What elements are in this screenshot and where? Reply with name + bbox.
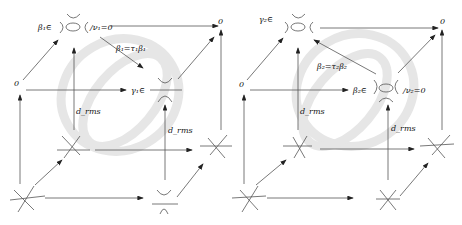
node-front-bottom-left <box>10 186 45 212</box>
node-back-right <box>200 135 232 158</box>
label-vertical-front: d_rms <box>168 126 193 135</box>
label-vertical-front: d_rms <box>391 124 416 133</box>
right-cube: γ₂∈ 0 0 β₂=τ₂β₂ β₂∈ /ν₂=0 d_rms d_rms <box>232 14 454 212</box>
node-top-left <box>285 14 313 33</box>
label-mid-right: β₂∈ <box>352 86 367 95</box>
label-top-left: β₁∈ <box>37 23 52 32</box>
label-top-right: 0 <box>440 17 445 26</box>
label-mid-right: γ₁∈ <box>131 86 145 95</box>
label-mid-left: 0 <box>239 80 244 89</box>
node-top-left <box>60 14 88 33</box>
watermark-knot-left <box>41 17 200 172</box>
label-mid-left: 0 <box>14 79 19 88</box>
label-top-right: 0 <box>218 17 223 26</box>
node-back-right <box>420 135 454 158</box>
label-top-left: γ₂∈ <box>259 15 273 24</box>
label-diagonal: β₂=τ₂β₂ <box>316 62 347 71</box>
label-mid-right-cond: /ν₂=0 <box>402 86 426 95</box>
label-diagonal: β₁=τ₁β₁ <box>115 44 146 53</box>
node-front-bottom-right <box>376 190 400 210</box>
node-front-bottom-right <box>152 190 178 214</box>
label-vertical-back: d_rms <box>76 107 101 116</box>
node-front-bottom-left <box>232 186 266 212</box>
label-top-left-cond: /ν₁=0 <box>89 23 113 32</box>
diagram-canvas: β₁∈ /ν₁=0 0 0 β₁=τ₁β₁ γ₁∈ d_rms d_rms <box>0 0 462 225</box>
left-cube: β₁∈ /ν₁=0 0 0 β₁=τ₁β₁ γ₁∈ d_rms d_rms <box>10 14 232 214</box>
label-vertical-back: d_rms <box>300 107 325 116</box>
